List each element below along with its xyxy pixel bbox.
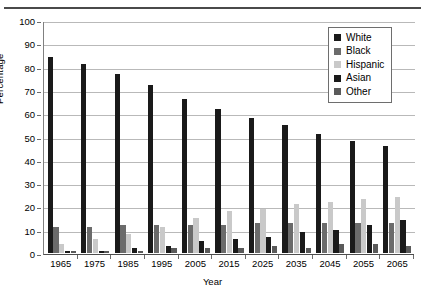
bar-hispanic-2065: [395, 197, 400, 253]
bar-other-2005: [205, 248, 210, 253]
y-tick-label: 90: [24, 41, 35, 51]
y-tick-mark: [37, 255, 41, 256]
bar-asian-2065: [400, 220, 405, 253]
bar-black-1995: [154, 225, 159, 253]
y-tick-label: 50: [24, 134, 35, 144]
y-axis-tick-labels: 0102030405060708090100: [0, 22, 41, 255]
y-tick-label: 70: [24, 87, 35, 97]
x-tick-label: 1995: [145, 258, 179, 269]
bar-hispanic-2025: [260, 209, 265, 253]
bar-black-2035: [288, 223, 293, 253]
bar-white-2025: [249, 118, 254, 253]
bar-asian-2015: [233, 239, 238, 253]
bar-black-2005: [188, 225, 193, 253]
bar-group: [79, 22, 113, 253]
bar-black-2015: [221, 225, 226, 253]
y-tick-label: 60: [24, 110, 35, 120]
y-tick-mark: [37, 208, 41, 209]
bar-asian-1965: [65, 251, 70, 253]
bar-asian-2005: [199, 241, 204, 253]
bar-group: [213, 22, 247, 253]
y-tick-mark: [37, 139, 41, 140]
x-axis-tick-labels: 1965197519851995200520152025203520452055…: [44, 258, 414, 269]
bar-other-1995: [171, 248, 176, 253]
top-divider-rule: [4, 7, 421, 9]
bar-white-2045: [316, 134, 321, 253]
bar-black-1985: [120, 225, 125, 253]
y-tick-mark: [37, 162, 41, 163]
x-tick-label: 2035: [279, 258, 313, 269]
bar-white-2035: [282, 125, 287, 253]
bar-white-1995: [148, 85, 153, 253]
bar-black-1965: [53, 227, 58, 253]
legend-item-hispanic[interactable]: Hispanic: [334, 58, 384, 72]
x-tick-label: 1965: [44, 258, 78, 269]
bar-asian-1995: [166, 246, 171, 253]
x-tick-label: 2065: [380, 258, 414, 269]
x-tick-label: 2005: [179, 258, 213, 269]
bar-white-1975: [81, 64, 86, 253]
bar-hispanic-2015: [227, 211, 232, 253]
legend-label: Black: [346, 46, 370, 56]
x-tick-label: 1985: [111, 258, 145, 269]
bar-white-1985: [115, 74, 120, 253]
legend-swatch-icon: [334, 48, 341, 55]
bar-asian-2045: [333, 230, 338, 253]
x-tick-label: 2045: [313, 258, 347, 269]
bar-white-2065: [383, 146, 388, 253]
legend-item-asian[interactable]: Asian: [334, 72, 384, 86]
legend-label: Hispanic: [346, 60, 384, 70]
legend-label: Asian: [346, 73, 371, 83]
x-tick-label: 2025: [246, 258, 280, 269]
bar-hispanic-1975: [93, 239, 98, 253]
bar-black-2055: [355, 223, 360, 253]
chart-page: Percentage 0102030405060708090100 196519…: [0, 0, 425, 303]
bar-hispanic-2055: [361, 199, 366, 253]
bar-group: [280, 22, 314, 253]
bar-asian-1985: [132, 248, 137, 253]
y-tick-mark: [37, 185, 41, 186]
bar-asian-1975: [99, 251, 104, 253]
legend-swatch-icon: [334, 88, 341, 95]
legend-item-other[interactable]: Other: [334, 85, 384, 99]
bar-group: [45, 22, 79, 253]
bar-hispanic-2045: [328, 202, 333, 253]
bar-hispanic-2005: [193, 218, 198, 253]
y-tick-label: 40: [24, 157, 35, 167]
y-tick-mark: [37, 115, 41, 116]
bar-other-1965: [71, 251, 76, 253]
bar-white-2015: [215, 109, 220, 253]
bar-white-2005: [182, 99, 187, 253]
bar-black-2025: [255, 223, 260, 253]
bar-hispanic-2035: [294, 204, 299, 253]
bar-group: [246, 22, 280, 253]
bar-asian-2025: [266, 237, 271, 253]
y-tick-mark: [37, 22, 41, 23]
bar-other-2015: [238, 248, 243, 253]
legend-swatch-icon: [334, 61, 341, 68]
legend-swatch-icon: [334, 34, 341, 41]
y-tick-label: 100: [19, 17, 35, 27]
bar-other-2045: [339, 244, 344, 253]
bar-group: [112, 22, 146, 253]
bar-hispanic-1995: [160, 227, 165, 253]
bar-white-1965: [48, 57, 53, 253]
bar-black-2065: [389, 223, 394, 253]
x-tick-label: 2055: [347, 258, 381, 269]
legend-item-white[interactable]: White: [334, 31, 384, 45]
bar-group: [146, 22, 180, 253]
y-tick-label: 80: [24, 64, 35, 74]
y-tick-label: 10: [24, 227, 35, 237]
bar-hispanic-1965: [59, 244, 64, 253]
bar-other-1975: [104, 251, 109, 253]
bar-white-2055: [350, 141, 355, 253]
bar-other-2025: [272, 246, 277, 253]
chart-legend: WhiteBlackHispanicAsianOther: [328, 27, 392, 103]
legend-label: Other: [346, 87, 371, 97]
bar-group: [179, 22, 213, 253]
y-tick-mark: [37, 69, 41, 70]
legend-item-black[interactable]: Black: [334, 45, 384, 59]
y-tick-mark: [37, 92, 41, 93]
bar-other-2035: [306, 248, 311, 253]
bar-hispanic-1985: [126, 234, 131, 253]
